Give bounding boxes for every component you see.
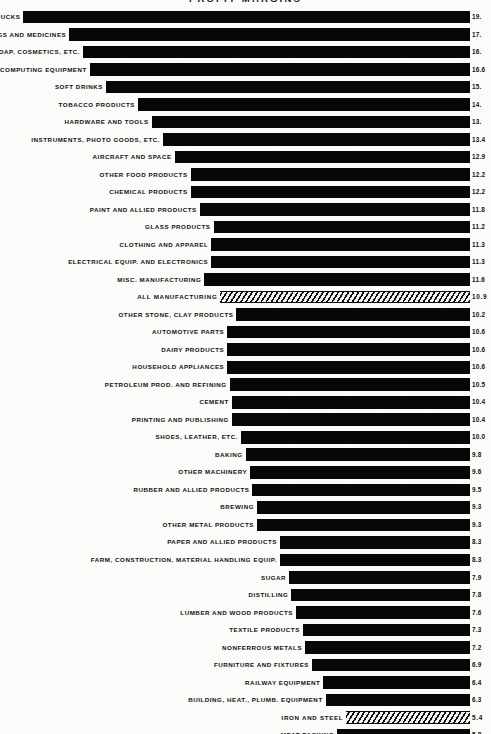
bar-row: LUMBER AND WOOD PRODUCTS7.6 (0, 604, 491, 622)
bar-value-label: 11.8 (472, 201, 485, 219)
bar-value-label: 5.8 (472, 726, 481, 734)
bar (232, 413, 470, 426)
bar-value-label: 12.2 (472, 166, 485, 184)
bar-value-label: 8.3 (472, 533, 481, 551)
bar-value-label: 7.2 (472, 639, 481, 657)
bar-row: HOUSEHOLD APPLIANCES10.6 (0, 358, 491, 376)
bar-value-label: 12.9 (472, 148, 485, 166)
bar-row: NONFERROUS METALS7.2 (0, 639, 491, 657)
bar (305, 641, 470, 654)
bar-value-label: 10.4 (472, 411, 485, 429)
bar-row: BUILDING, HEAT., PLUMB. EQUIPMENT6.3 (0, 691, 491, 709)
bar-category-label: SOAP, COSMETICS, ETC. (0, 43, 83, 61)
bar-category-label: TOBACCO PRODUCTS (59, 96, 138, 114)
bar-value-label: 8.3 (472, 551, 481, 569)
bar-category-label: FURNITURE AND FIXTURES (214, 656, 312, 674)
bar (236, 308, 470, 321)
bar-row: DRUGS AND MEDICINES17. (0, 26, 491, 44)
bar-category-label: PETROLEUM PROD. AND REFINING (105, 376, 230, 394)
bar-category-label: SOFT DRINKS (55, 78, 106, 96)
bar-category-label: OTHER METAL PRODUCTS (162, 516, 257, 534)
bar-value-label: 6.4 (472, 674, 481, 692)
chart-title: PROFIT MARGINS (0, 0, 491, 4)
bar-category-label: CEMENT (199, 393, 231, 411)
bar-category-label: GLASS PRODUCTS (145, 218, 213, 236)
bar-value-label: 15. (472, 78, 481, 96)
bar (227, 326, 470, 339)
bar-category-label: OFFICE, COMPUTING EQUIPMENT (0, 61, 90, 79)
bar (252, 484, 470, 497)
bar-category-label: INSTRUMENTS, PHOTO GOODS, ETC. (31, 131, 163, 149)
bar-value-label: 7.6 (472, 604, 481, 622)
bar (246, 448, 470, 461)
bar (337, 729, 470, 734)
bar (323, 676, 470, 689)
bar-category-label: PAINT AND ALLIED PRODUCTS (90, 201, 200, 219)
bar-value-label: 5.4 (472, 709, 483, 727)
bar-category-label: HARDWARE AND TOOLS (65, 113, 152, 131)
bar-row: MEAT PACKING5.8 (0, 726, 491, 734)
bar-category-label: AUTOMOTIVE PARTS (152, 323, 227, 341)
bar (23, 11, 470, 24)
bar (280, 536, 470, 549)
bar-row: IRON AND STEEL5.4 (0, 709, 491, 727)
bar (232, 396, 470, 409)
bar-value-label: 13.4 (472, 131, 485, 149)
bar-category-label: ELECTRICAL EQUIP. AND ELECTRONICS (68, 253, 211, 271)
bar-row: CHEMICAL PRODUCTS12.2 (0, 183, 491, 201)
bar (250, 466, 470, 479)
bar-value-label: 17. (472, 26, 481, 44)
bar-category-label: ALL MANUFACTURING (137, 288, 220, 306)
bar-value-label: 19. (472, 8, 481, 26)
bar-category-label: BUILDING, HEAT., PLUMB. EQUIPMENT (188, 691, 326, 709)
bar-row: TOBACCO PRODUCTS14. (0, 96, 491, 114)
bar-value-label: 10.6 (472, 341, 485, 359)
bar-row: OFFICE, COMPUTING EQUIPMENT16.6 (0, 61, 491, 79)
bar (69, 28, 470, 41)
bar (163, 133, 470, 146)
bar-row: PAPER AND ALLIED PRODUCTS8.3 (0, 533, 491, 551)
bar-category-label: DRUGS AND MEDICINES (0, 26, 69, 44)
bar-row: DAIRY PRODUCTS10.6 (0, 341, 491, 359)
bar-category-label: OTHER MACHINERY (178, 463, 250, 481)
bar-value-label: 10.4 (472, 393, 485, 411)
bar-value-label: 9.3 (472, 498, 481, 516)
bar-value-label: 11.2 (472, 218, 485, 236)
bar (211, 256, 470, 269)
bar-row: CLOTHING AND APPAREL11.3 (0, 236, 491, 254)
bar-row: FURNITURE AND FIXTURES6.9 (0, 656, 491, 674)
bar-row: BAKING9.8 (0, 446, 491, 464)
bar (175, 151, 470, 164)
bar-value-label: 9.6 (472, 463, 481, 481)
bar-row: OTHER MACHINERY9.6 (0, 463, 491, 481)
bar (241, 431, 470, 444)
bar-category-label: OTHER STONE, CLAY PRODUCTS (119, 306, 237, 324)
bar-row: DISTILLING7.8 (0, 586, 491, 604)
bar-row: CEMENT10.4 (0, 393, 491, 411)
bar-category-label: CLOTHING AND APPAREL (119, 236, 211, 254)
bar-row: TEXTILE PRODUCTS7.3 (0, 621, 491, 639)
bar-value-label: 7.3 (472, 621, 481, 639)
bar (138, 98, 470, 111)
bar-category-label: RAILWAY EQUIPMENT (245, 674, 323, 692)
bar-row: MISC. MANUFACTURING11.6 (0, 271, 491, 289)
bar-row: INSTRUMENTS, PHOTO GOODS, ETC.13.4 (0, 131, 491, 149)
bar-value-label: 12.2 (472, 183, 485, 201)
chart-page: PROFIT MARGINS AUTOS AND TRUCKS19.DRUGS … (0, 0, 491, 734)
bar-value-label: 16. (472, 43, 481, 61)
bar-value-label: 11.3 (472, 253, 485, 271)
bar-category-label: NONFERROUS METALS (222, 639, 305, 657)
bar-row: SOAP, COSMETICS, ETC.16. (0, 43, 491, 61)
bar (191, 186, 470, 199)
bar (152, 116, 470, 129)
bar (230, 378, 470, 391)
bar-value-label: 6.3 (472, 691, 481, 709)
bar (303, 624, 470, 637)
bar-value-label: 11.3 (472, 236, 485, 254)
bar-row: PETROLEUM PROD. AND REFINING10.5 (0, 376, 491, 394)
bar (280, 554, 470, 567)
bar-category-label: SHOES, LEATHER, ETC. (156, 428, 241, 446)
bar-value-label: 16.6 (472, 61, 485, 79)
bar-row: GLASS PRODUCTS11.2 (0, 218, 491, 236)
bar (326, 694, 470, 707)
